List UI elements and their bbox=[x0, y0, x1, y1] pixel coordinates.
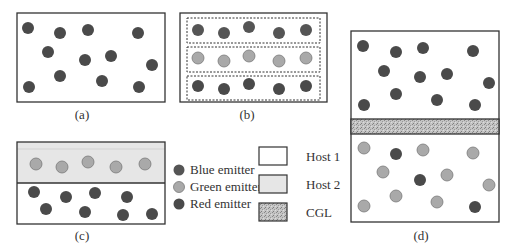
green-emitter-dot bbox=[110, 161, 122, 173]
green-emitter-dot bbox=[467, 147, 479, 159]
red-emitter-dot bbox=[121, 191, 133, 203]
panel-b: (b) bbox=[180, 13, 327, 122]
green-emitter-dot bbox=[30, 158, 42, 170]
red-emitter-dot bbox=[79, 206, 91, 218]
red-emitter-dot bbox=[89, 187, 101, 199]
panel-c: (c) bbox=[17, 142, 165, 243]
green-emitter-dot bbox=[390, 190, 402, 202]
legend-label-cgl: CGL bbox=[306, 205, 332, 220]
green-emitter-dot bbox=[56, 161, 68, 173]
host1-swatch-icon bbox=[259, 147, 287, 165]
green-emitter-dot bbox=[483, 179, 495, 191]
green-emitter-dot bbox=[139, 158, 151, 170]
legend-item-green-emitter: Green emitter bbox=[174, 179, 263, 194]
red-emitter-dot bbox=[414, 71, 426, 83]
red-emitter-dot bbox=[105, 50, 117, 62]
red-emitter-dot bbox=[22, 22, 34, 34]
red-emitter-dot bbox=[117, 209, 129, 221]
red-emitter-dot bbox=[96, 75, 108, 87]
red-emitter-dot bbox=[133, 81, 145, 93]
red-emitter-dot bbox=[417, 42, 429, 54]
green-emitter-dot bbox=[192, 52, 204, 64]
panel-a: (a) bbox=[17, 13, 165, 122]
red-emitter-dot bbox=[357, 40, 369, 52]
red-emitter-dot bbox=[390, 46, 402, 58]
green-emitter-dot bbox=[358, 200, 370, 212]
red-emitter-dot bbox=[378, 65, 390, 77]
panel-b-caption: (b) bbox=[239, 107, 254, 122]
green-emitter-dot bbox=[358, 142, 370, 154]
legend-item-host1: Host 1 bbox=[259, 147, 340, 165]
legend-item-host2: Host 2 bbox=[259, 175, 340, 193]
red-emitter-dot bbox=[390, 88, 402, 100]
blue-emitter-dot bbox=[192, 24, 204, 36]
red-emitter-dot bbox=[467, 45, 479, 57]
legend-label-red-emitter: Red emitter bbox=[190, 196, 252, 211]
red-emitter-dot bbox=[146, 59, 158, 71]
red-emitter-dot bbox=[218, 83, 230, 95]
red-emitter-dot bbox=[441, 68, 453, 80]
green-emitter-dot bbox=[273, 55, 285, 67]
legend-item-cgl: CGL bbox=[259, 203, 332, 221]
red-emitter-dot bbox=[132, 27, 144, 39]
green-emitter-dot bbox=[218, 55, 230, 67]
red-emitter-icon bbox=[174, 199, 185, 210]
red-emitter-dot bbox=[54, 27, 66, 39]
red-emitter-dot bbox=[42, 46, 54, 58]
emitter-layer-diagram: (a) (b) bbox=[0, 0, 516, 252]
red-emitter-dot bbox=[469, 201, 481, 213]
green-emitter-dot bbox=[417, 144, 429, 156]
red-emitter-dot bbox=[431, 94, 443, 106]
blue-emitter-dot bbox=[300, 24, 312, 36]
blue-emitter-icon bbox=[174, 165, 185, 176]
panel-c-caption: (c) bbox=[75, 228, 89, 243]
red-emitter-dot bbox=[82, 24, 94, 36]
legend-label-blue-emitter: Blue emitter bbox=[190, 162, 255, 177]
red-emitter-dot bbox=[79, 54, 91, 66]
red-emitter-dot bbox=[40, 203, 52, 215]
red-emitter-dot bbox=[414, 174, 426, 186]
blue-emitter-dot bbox=[273, 27, 285, 39]
green-emitter-icon bbox=[174, 182, 185, 193]
red-emitter-dot bbox=[469, 99, 481, 111]
red-emitter-dot bbox=[390, 148, 402, 160]
panel-d-cgl-layer bbox=[351, 119, 499, 134]
legend-label-host1: Host 1 bbox=[306, 149, 340, 164]
legend-label-host2: Host 2 bbox=[306, 177, 340, 192]
red-emitter-dot bbox=[60, 191, 72, 203]
red-emitter-dot bbox=[54, 70, 66, 82]
green-emitter-dot bbox=[431, 196, 443, 208]
blue-emitter-dot bbox=[243, 21, 255, 33]
cgl-swatch-icon bbox=[259, 203, 287, 221]
green-emitter-dot bbox=[243, 50, 255, 62]
panel-d: (d) bbox=[351, 31, 499, 243]
legend-label-green-emitter: Green emitter bbox=[190, 179, 262, 194]
red-emitter-dot bbox=[243, 78, 255, 90]
legend-item-blue-emitter: Blue emitter bbox=[174, 162, 256, 177]
green-emitter-dot bbox=[82, 156, 94, 168]
legend-item-red-emitter: Red emitter bbox=[174, 196, 252, 211]
panel-a-caption: (a) bbox=[75, 107, 89, 122]
legend: Blue emitter Green emitter Red emitter H… bbox=[174, 147, 341, 221]
green-emitter-dot bbox=[377, 166, 389, 178]
blue-emitter-dot bbox=[218, 27, 230, 39]
panel-d-caption: (d) bbox=[413, 228, 428, 243]
red-emitter-dot bbox=[23, 81, 35, 93]
red-emitter-dot bbox=[300, 80, 312, 92]
green-emitter-dot bbox=[300, 52, 312, 64]
red-emitter-dot bbox=[273, 83, 285, 95]
red-emitter-dot bbox=[28, 186, 40, 198]
red-emitter-dot bbox=[483, 77, 495, 89]
green-emitter-dot bbox=[441, 169, 453, 181]
red-emitter-dot bbox=[146, 208, 158, 220]
red-emitter-dot bbox=[358, 99, 370, 111]
red-emitter-dot bbox=[192, 80, 204, 92]
host2-swatch-icon bbox=[259, 175, 287, 193]
